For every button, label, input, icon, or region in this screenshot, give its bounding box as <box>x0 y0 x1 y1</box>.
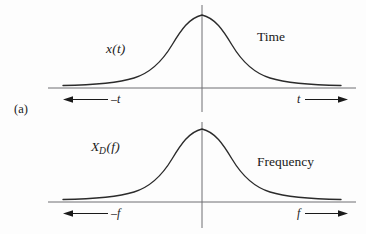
time-negative-axis-label: –t <box>111 93 120 105</box>
time-positive-axis-label: t <box>297 93 300 105</box>
frequency-positive-direction-arrow <box>305 210 348 216</box>
frequency-negative-axis-label: –f <box>111 207 120 219</box>
frequency-positive-axis-label: f <box>297 207 300 219</box>
time-positive-direction-arrow <box>305 96 348 102</box>
frequency-domain-plot <box>0 117 366 234</box>
frequency-negative-direction-arrow <box>63 210 108 216</box>
time-function-label: x(t) <box>106 42 126 56</box>
frequency-domain-panel <box>0 117 366 234</box>
time-domain-plot <box>0 0 366 117</box>
time-domain-panel: x(t) Time –t t <box>0 0 366 117</box>
panel-enumerator: (a) <box>14 103 28 116</box>
frequency-function-label: XD(f) <box>91 140 120 154</box>
time-domain-annotation: Time <box>257 30 285 44</box>
frequency-domain-annotation: Frequency <box>257 155 314 169</box>
time-negative-direction-arrow <box>63 96 108 102</box>
figure-root: x(t) Time –t t XD(f) Frequency <box>0 0 366 234</box>
